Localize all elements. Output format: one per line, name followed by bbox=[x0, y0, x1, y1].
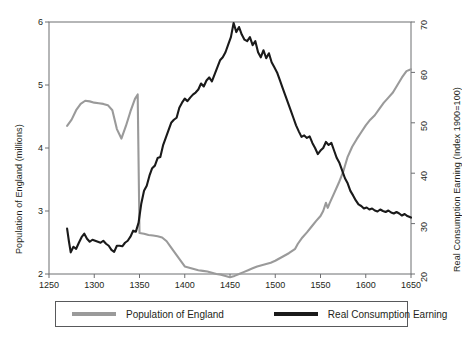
y-right-tick-40: 40 bbox=[419, 171, 429, 181]
y-right-tick-60: 60 bbox=[419, 70, 429, 80]
x-tick-1350: 1350 bbox=[129, 280, 149, 290]
x-tick-1500: 1500 bbox=[265, 280, 285, 290]
x-tick-1600: 1600 bbox=[356, 280, 376, 290]
x-tick-1250: 1250 bbox=[39, 280, 59, 290]
y-right-tick-30: 30 bbox=[419, 222, 429, 232]
plot-frame bbox=[49, 22, 411, 274]
x-tick-1450: 1450 bbox=[220, 280, 240, 290]
legend-item-population: Population of England bbox=[72, 309, 224, 320]
x-tick-1400: 1400 bbox=[175, 280, 195, 290]
x-tick-1550: 1550 bbox=[310, 280, 330, 290]
y-left-tick-4: 4 bbox=[31, 143, 43, 153]
legend-item-real-consumption-earning: Real Consumption Earning bbox=[274, 309, 448, 320]
legend-swatch-population bbox=[72, 312, 116, 316]
y-axis-left-title: Population of England (millions) bbox=[14, 124, 24, 254]
y-right-tick-50: 50 bbox=[419, 121, 429, 131]
legend-swatch-real-consumption-earning bbox=[274, 312, 318, 316]
legend-label-real-consumption-earning: Real Consumption Earning bbox=[328, 309, 448, 320]
y-left-tick-6: 6 bbox=[31, 17, 43, 27]
x-tick-1650: 1650 bbox=[401, 280, 421, 290]
y-left-tick-5: 5 bbox=[31, 80, 43, 90]
y-left-tick-3: 3 bbox=[31, 206, 43, 216]
y-right-tick-20: 20 bbox=[419, 272, 429, 282]
chart-figure: Population of England (millions) Real Co… bbox=[0, 0, 462, 339]
x-tick-1300: 1300 bbox=[84, 280, 104, 290]
chart-legend: Population of England Real Consumption E… bbox=[55, 301, 408, 327]
y-right-tick-70: 70 bbox=[419, 20, 429, 30]
legend-label-population: Population of England bbox=[126, 309, 224, 320]
y-axis-right-title: Real Consumption Earning (Index 1900=100… bbox=[452, 87, 462, 272]
y-left-tick-2: 2 bbox=[31, 269, 43, 279]
